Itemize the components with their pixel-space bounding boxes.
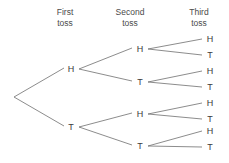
branch-root-to-first-t — [14, 97, 64, 126]
branch-second-t2-to-third-t — [148, 146, 202, 147]
node-third-toss-h-4: H — [207, 126, 214, 136]
branches-first-to-second — [79, 48, 132, 145]
branch-second-t2-to-third-h — [148, 131, 202, 146]
branch-root-to-first-h — [14, 68, 64, 97]
branch-second-h1-to-third-h — [148, 39, 202, 49]
branch-first-t-to-second-h — [79, 113, 132, 127]
branch-second-t1-to-third-h — [148, 71, 202, 82]
node-second-toss-t-2: T — [137, 141, 143, 151]
branch-first-h-to-second-h — [79, 48, 132, 69]
nodes-second-toss: H T H T — [137, 44, 144, 151]
header-second-toss-line1: Second — [116, 7, 145, 17]
node-second-toss-h-1: H — [137, 44, 144, 54]
header-first-toss-line2: toss — [57, 18, 73, 28]
branch-second-h2-to-third-t — [148, 114, 202, 119]
nodes-first-toss: H T — [68, 64, 75, 132]
header-third-toss-line2: toss — [191, 18, 207, 28]
node-third-toss-t-4: T — [207, 142, 213, 152]
node-second-toss-t-1: T — [137, 77, 143, 87]
node-third-toss-t-1: T — [207, 50, 213, 60]
node-third-toss-t-2: T — [207, 82, 213, 92]
branch-first-h-to-second-t — [79, 69, 132, 81]
node-third-toss-t-3: T — [207, 114, 213, 124]
nodes-third-toss: H T H T H T H T — [207, 34, 214, 152]
node-second-toss-h-2: H — [137, 109, 144, 119]
tree-canvas: First toss Second toss Third toss — [0, 0, 229, 163]
header-first-toss-line1: First — [57, 7, 74, 17]
node-first-toss-h: H — [68, 64, 75, 74]
branch-second-t1-to-third-t — [148, 82, 202, 87]
node-first-toss-t: T — [68, 122, 74, 132]
probability-tree-diagram: First toss Second toss Third toss — [0, 0, 229, 163]
node-third-toss-h-3: H — [207, 98, 214, 108]
node-third-toss-h-2: H — [207, 66, 214, 76]
branch-second-h2-to-third-h — [148, 103, 202, 114]
header-second-toss-line2: toss — [122, 18, 138, 28]
branches-second-to-third — [148, 39, 202, 147]
branch-first-t-to-second-t — [79, 127, 132, 145]
header-third-toss-line1: Third — [189, 7, 209, 17]
branch-second-h1-to-third-t — [148, 49, 202, 55]
node-third-toss-h-1: H — [207, 34, 214, 44]
column-headers: First toss Second toss Third toss — [57, 7, 209, 28]
branches-root-to-first — [14, 68, 64, 126]
